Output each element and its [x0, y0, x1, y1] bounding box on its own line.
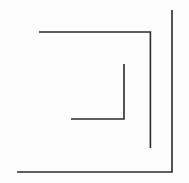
canvas-background: [0, 0, 189, 183]
spiral-figure-container: [0, 0, 189, 183]
spiral-drawing-canvas: [0, 0, 189, 183]
